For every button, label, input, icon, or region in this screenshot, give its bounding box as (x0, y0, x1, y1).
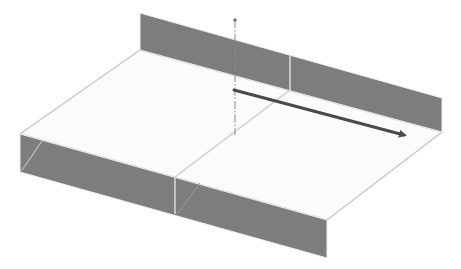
axis-top-point (233, 18, 237, 22)
diagram-canvas (0, 0, 461, 269)
